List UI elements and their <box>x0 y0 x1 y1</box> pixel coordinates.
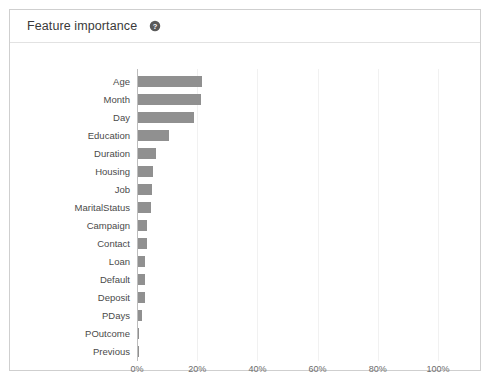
bar-row: Education <box>10 127 480 145</box>
bar-track <box>138 256 439 267</box>
page-title: Feature importance <box>27 19 137 33</box>
chart-plot-area: Age Month Day Education <box>10 44 480 371</box>
bar-fill <box>138 256 145 267</box>
x-axis-ticks: 0% 20% 40% 60% 80% 100% <box>10 364 480 378</box>
bar-track <box>138 292 439 303</box>
bar-row: POutcome <box>10 325 480 343</box>
bar-fill <box>138 292 145 303</box>
bar-row: Age <box>10 73 480 91</box>
bar-row: PDays <box>10 307 480 325</box>
bar-fill <box>138 328 139 339</box>
bar-track <box>138 130 439 141</box>
bar-fill <box>138 346 139 357</box>
bar-label: Duration <box>10 145 130 163</box>
bar-label: Housing <box>10 163 130 181</box>
bar-label: Contact <box>10 235 130 253</box>
svg-text:?: ? <box>153 22 158 31</box>
bar-label: Default <box>10 271 130 289</box>
bar-label: Day <box>10 109 130 127</box>
bar-row: Default <box>10 271 480 289</box>
bar-track <box>138 76 439 87</box>
bar-track <box>138 202 439 213</box>
bar-row: Contact <box>10 235 480 253</box>
bar-track <box>138 238 439 249</box>
bar-fill <box>138 148 156 159</box>
bar-row: Duration <box>10 145 480 163</box>
bar-label: MaritalStatus <box>10 199 130 217</box>
bar-track <box>138 94 439 105</box>
bar-row: Campaign <box>10 217 480 235</box>
bar-fill <box>138 76 202 87</box>
x-tick-label: 40% <box>248 364 266 374</box>
bar-fill <box>138 310 142 321</box>
bar-track <box>138 328 439 339</box>
feature-importance-card: Feature importance ? Age Month <box>9 9 481 371</box>
bar-row: Day <box>10 109 480 127</box>
bar-row: Month <box>10 91 480 109</box>
bar-track <box>138 184 439 195</box>
bar-track <box>138 220 439 231</box>
bar-fill <box>138 220 147 231</box>
x-tick-label: 100% <box>426 364 449 374</box>
bar-track <box>138 112 439 123</box>
bar-row: Previous <box>10 343 480 361</box>
bar-series: Age Month Day Education <box>10 73 480 361</box>
bar-label: Month <box>10 91 130 109</box>
bar-label: PDays <box>10 307 130 325</box>
bar-row: Deposit <box>10 289 480 307</box>
bar-label: Education <box>10 127 130 145</box>
bar-label: POutcome <box>10 325 130 343</box>
bar-track <box>138 346 439 357</box>
bar-fill <box>138 202 151 213</box>
x-tick-label: 60% <box>309 364 327 374</box>
bar-row: Housing <box>10 163 480 181</box>
bar-label: Age <box>10 73 130 91</box>
bar-label: Campaign <box>10 217 130 235</box>
bar-row: MaritalStatus <box>10 199 480 217</box>
bar-fill <box>138 94 201 105</box>
card-header: Feature importance ? <box>10 10 480 43</box>
bar-fill <box>138 274 145 285</box>
bar-row: Job <box>10 181 480 199</box>
bar-fill <box>138 238 147 249</box>
bar-label: Job <box>10 181 130 199</box>
bar-fill <box>138 112 194 123</box>
bar-label: Loan <box>10 253 130 271</box>
bar-label: Previous <box>10 343 130 361</box>
bar-track <box>138 310 439 321</box>
bar-row: Loan <box>10 253 480 271</box>
x-tick-label: 0% <box>130 364 143 374</box>
bar-label: Deposit <box>10 289 130 307</box>
help-circle-icon[interactable]: ? <box>137 20 161 32</box>
x-tick-label: 20% <box>188 364 206 374</box>
bar-fill <box>138 130 169 141</box>
x-tick-label: 80% <box>369 364 387 374</box>
bar-track <box>138 274 439 285</box>
bar-track <box>138 148 439 159</box>
bar-track <box>138 166 439 177</box>
bar-fill <box>138 184 152 195</box>
bar-fill <box>138 166 153 177</box>
